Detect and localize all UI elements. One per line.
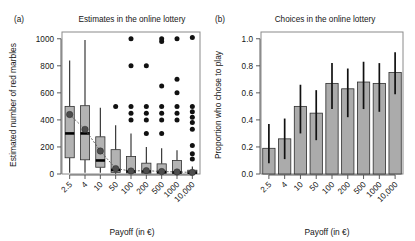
- panel-a-ytick-label: 1000: [36, 35, 55, 44]
- boxplot-outlier: [129, 63, 134, 68]
- boxplot-outlier: [190, 104, 195, 109]
- boxplot-outlier: [190, 109, 195, 114]
- panel-b-ytick-label: 0.6: [242, 89, 254, 98]
- boxplot-outlier: [190, 157, 195, 162]
- panel-a-xtick-label: 10: [92, 180, 105, 193]
- panel-a-xtick-label: 4: [80, 180, 90, 190]
- boxplot-outlier: [190, 120, 195, 125]
- panel-b-tag: (b): [215, 15, 225, 24]
- panel-b-ylabel: Proportion who chose to play: [213, 50, 223, 159]
- panel-b-ytick-label: 1.0: [242, 35, 254, 44]
- boxplot-outlier: [144, 63, 149, 68]
- boxplot-outlier: [159, 39, 164, 44]
- figure-container: (a) Estimates in the online lottery 0200…: [0, 0, 415, 241]
- mean-marker: [128, 168, 134, 174]
- panel-a-svg: (a) Estimates in the online lottery 0200…: [0, 0, 208, 241]
- mean-marker: [66, 111, 72, 117]
- boxplot-outlier: [175, 77, 180, 82]
- panel-a-xtick-label: 200: [135, 180, 151, 196]
- boxplot-outlier: [144, 111, 149, 116]
- mean-marker: [189, 169, 195, 175]
- panel-a-boxplot: (a) Estimates in the online lottery 0200…: [0, 0, 208, 241]
- boxplot-outlier: [190, 143, 195, 148]
- panel-b-title: Choices in the online lottery: [275, 15, 376, 24]
- panel-a-ytick-label: 400: [40, 116, 54, 125]
- panel-b-xtick-label: 4: [279, 180, 289, 190]
- boxplot-outlier: [129, 36, 134, 41]
- panel-b-barchart: (b) Choices in the online lottery 0.00.2…: [207, 0, 415, 241]
- panel-a-ylabel: Estimated number of red marbles: [8, 43, 18, 167]
- boxplot-outlier: [190, 127, 195, 132]
- panel-b-xtick-label: 100: [320, 180, 336, 196]
- boxplot-outlier: [113, 104, 118, 109]
- boxplot-outlier: [159, 117, 164, 122]
- boxplot-outlier: [175, 111, 180, 116]
- boxplot-outlier: [129, 104, 134, 109]
- panel-a-xtick-label: 2.5: [60, 180, 75, 195]
- boxplot-outlier: [190, 35, 195, 40]
- panel-a-ytick-label: 200: [40, 143, 54, 152]
- boxplot-outlier: [159, 104, 164, 109]
- boxplot-outlier: [144, 104, 149, 109]
- boxplot-outlier: [144, 131, 149, 136]
- mean-marker: [82, 126, 88, 132]
- panel-b-ytick-label: 0.0: [242, 170, 254, 179]
- panel-a-title: Estimates in the online lottery: [79, 15, 187, 24]
- panel-b-ytick-label: 0.4: [242, 116, 254, 125]
- mean-marker: [97, 148, 103, 154]
- boxplot-outlier: [159, 84, 164, 89]
- panel-b-ytick-label: 0.8: [242, 62, 254, 71]
- boxplot-outlier: [190, 151, 195, 156]
- panel-b-svg: (b) Choices in the online lottery 0.00.2…: [207, 0, 415, 241]
- boxplot-outlier: [175, 90, 180, 95]
- boxplot-outlier: [175, 36, 180, 41]
- boxplot-outlier: [159, 131, 164, 136]
- boxplot-outlier: [175, 104, 180, 109]
- panel-a-tag: (a): [14, 15, 24, 24]
- mean-marker: [143, 167, 149, 173]
- boxplot-outlier: [129, 111, 134, 116]
- panel-b-xtick-label: 2.5: [259, 180, 274, 195]
- panel-b-xtick-label: 10: [292, 180, 305, 193]
- boxplot-outlier: [175, 117, 180, 122]
- panel-b-xlabel: Payoff (in €): [305, 227, 350, 237]
- panel-a-ytick-label: 0: [49, 170, 54, 179]
- panel-a-xlabel: Payoff (in €): [110, 227, 155, 237]
- boxplot-outlier: [144, 117, 149, 122]
- panel-b-xtick-label: 50: [308, 180, 321, 193]
- mean-marker: [112, 165, 118, 171]
- boxplot-outlier: [129, 117, 134, 122]
- mean-marker: [158, 168, 164, 174]
- boxplot-outlier: [190, 115, 195, 120]
- boxplot-outlier: [159, 111, 164, 116]
- panel-a-xtick-label: 50: [107, 180, 120, 193]
- panel-b-ytick-label: 0.2: [242, 143, 254, 152]
- panel-a-ytick-label: 600: [40, 89, 54, 98]
- panel-a-xtick-label: 100: [119, 180, 135, 196]
- panel-a-ytick-label: 800: [40, 62, 54, 71]
- panel-b-xtick-label: 200: [336, 180, 352, 196]
- mean-marker: [174, 169, 180, 175]
